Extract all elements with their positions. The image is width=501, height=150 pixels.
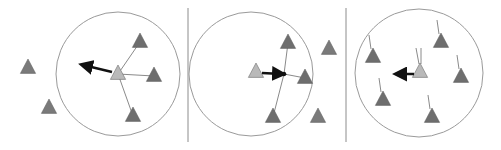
- heading-line: [428, 95, 430, 109]
- outsider-boid-icon: [41, 99, 56, 113]
- neighbor-boid-icon: [365, 48, 380, 62]
- outsider-boid-icon: [20, 59, 35, 73]
- centroid-dot: [282, 72, 286, 76]
- neighbor-boid-icon: [280, 34, 295, 48]
- heading-line: [457, 55, 459, 69]
- neighbor-boid-icon: [453, 68, 468, 82]
- focal-boid-icon: [248, 63, 263, 77]
- cohesion-steering-arrow: [262, 73, 282, 74]
- neighbor-link: [118, 74, 133, 116]
- neighbor-boid-icon: [433, 33, 448, 47]
- outsider-boid-icon: [321, 40, 336, 54]
- heading-line: [416, 48, 419, 64]
- flocking-rules-diagram: [0, 0, 501, 150]
- neighbor-boid-icon: [132, 33, 147, 47]
- centroid-link: [273, 74, 284, 117]
- neighbor-boid-icon: [146, 67, 161, 81]
- diagram-canvas: [0, 0, 501, 150]
- focal-boid-icon: [412, 63, 427, 77]
- separation-steering-arrow: [83, 65, 112, 72]
- neighbor-boid-icon: [297, 69, 312, 83]
- outsider-boid-icon: [310, 108, 325, 122]
- neighbor-boid-icon: [125, 107, 140, 121]
- heading-line: [369, 35, 371, 49]
- neighbor-boid-icon: [375, 91, 390, 105]
- heading-line: [437, 20, 439, 34]
- heading-line: [379, 78, 381, 92]
- neighbor-boid-icon: [265, 108, 280, 122]
- focal-boid-icon: [110, 65, 125, 79]
- neighbor-boid-icon: [424, 108, 439, 122]
